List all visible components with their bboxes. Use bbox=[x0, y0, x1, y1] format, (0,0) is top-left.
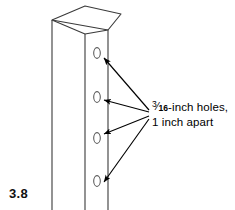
annotation-line-1-suffix: -inch holes, bbox=[168, 101, 228, 113]
annotation-line-1: 3⁄16-inch holes, bbox=[152, 98, 235, 116]
fraction-denominator: 16 bbox=[159, 103, 168, 113]
figure-3-8: 3⁄16-inch holes, 1 inch apart 3.8 bbox=[0, 0, 235, 210]
leader-arrows bbox=[104, 58, 149, 182]
annotation-line-2: 1 inch apart bbox=[152, 116, 235, 130]
hole-annotation: 3⁄16-inch holes, 1 inch apart bbox=[152, 98, 235, 129]
arrow-to-hole-4 bbox=[104, 119, 149, 182]
post-front-left-face bbox=[52, 20, 85, 210]
figure-label: 3.8 bbox=[9, 186, 28, 201]
fraction-three-sixteenths: 3⁄16 bbox=[152, 98, 168, 116]
arrow-to-hole-3 bbox=[104, 116, 149, 134]
post-front-right-face bbox=[85, 30, 108, 210]
post-outline bbox=[52, 6, 121, 210]
